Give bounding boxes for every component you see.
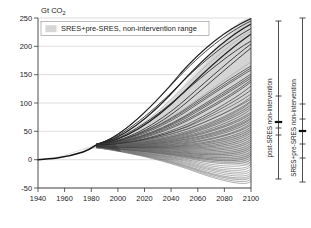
y-tick-50: 50 [24,127,32,136]
range-label-sres-presres: SRES+pre-SRES non-intervention [290,79,298,177]
x-tickmarks [38,188,251,192]
x-tick-2060: 2060 [190,194,206,203]
y-tick-150: 150 [20,70,32,79]
x-tick-1960: 1960 [56,194,72,203]
legend-label-sres-range: SRES+pre-SRES, non-intervention range [61,24,197,33]
emissions-scenario-chart: 250 200 150 100 50 0 -50 1940 1960 1980 … [0,0,311,228]
y-tickmarks [34,18,38,188]
y-tick-0: 0 [28,155,32,164]
range-bar-sres-presres: SRES+pre-SRES non-intervention [290,18,306,182]
x-tick-2080: 2080 [216,194,232,203]
y-axis-title-text: Gt CO [41,6,63,15]
y-axis-title: Gt CO 2 [41,6,66,16]
y-tick-250: 250 [20,14,32,23]
x-tick-2040: 2040 [163,194,179,203]
y-tick-200: 200 [20,42,32,51]
y-axis-title-subscript: 2 [63,10,66,16]
y-tick-100: 100 [20,99,32,108]
x-tick-1940: 1940 [30,194,46,203]
x-tick-2100: 2100 [243,194,259,203]
x-tick-2000: 2000 [110,194,126,203]
legend-swatch-sres-range [46,25,57,32]
x-tick-2020: 2020 [136,194,152,203]
x-tick-labels: 1940 1960 1980 2000 2020 2040 2060 2080 … [30,194,259,203]
y-tick-labels: 250 200 150 100 50 0 -50 [20,14,32,193]
range-bar-post-sres: post-SRES non-intervention [266,21,282,179]
y-tick-neg50: -50 [21,184,32,193]
legend: SRES+pre-SRES, non-intervention range [41,22,209,36]
chart-container: 250 200 150 100 50 0 -50 1940 1960 1980 … [0,0,311,228]
range-label-post-sres: post-SRES non-intervention [266,78,274,158]
x-tick-1980: 1980 [83,194,99,203]
